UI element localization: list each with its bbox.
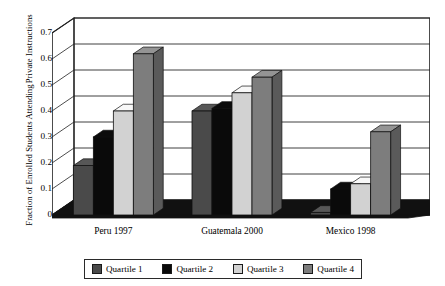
- legend-label: Quartile 2: [176, 265, 213, 274]
- x-tick-label: Peru 1997: [58, 226, 168, 236]
- legend-item[interactable]: Quartile 3: [233, 264, 284, 274]
- y-tick-label: 0.4: [26, 106, 52, 115]
- y-tick-label: 0.1: [26, 184, 52, 193]
- legend-swatch-icon: [92, 264, 102, 274]
- chart-canvas: [52, 14, 430, 221]
- legend-label: Quartile 1: [106, 265, 143, 274]
- chart-legend: Quartile 1Quartile 2Quartile 3Quartile 4: [84, 259, 362, 279]
- y-axis-ticks: 00.10.20.30.40.50.60.7: [26, 0, 52, 286]
- legend-item[interactable]: Quartile 1: [92, 264, 143, 274]
- x-axis-labels: Peru 1997Guatemala 2000Mexico 1998: [52, 226, 430, 242]
- legend-item[interactable]: Quartile 4: [303, 264, 354, 274]
- chart-figure: Fraction of Enrolled Students Attending …: [0, 0, 445, 286]
- y-tick-label: 0.2: [26, 158, 52, 167]
- y-tick-label: 0.3: [26, 132, 52, 141]
- legend-label: Quartile 4: [317, 265, 354, 274]
- x-tick-label: Guatemala 2000: [177, 226, 287, 236]
- x-tick-label: Mexico 1998: [296, 226, 406, 236]
- y-tick-label: 0.6: [26, 54, 52, 63]
- y-tick-label: 0.5: [26, 80, 52, 89]
- legend-swatch-icon: [303, 264, 313, 274]
- legend-label: Quartile 3: [247, 265, 284, 274]
- y-tick-label: 0.7: [26, 28, 52, 37]
- y-tick-label: 0: [26, 210, 52, 219]
- legend-item[interactable]: Quartile 2: [162, 264, 213, 274]
- legend-swatch-icon: [233, 264, 243, 274]
- legend-swatch-icon: [162, 264, 172, 274]
- plot-area: [52, 14, 430, 221]
